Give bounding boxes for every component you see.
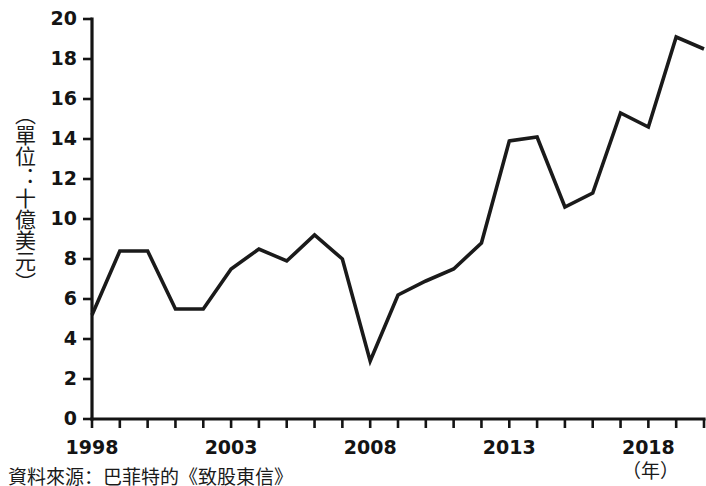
y-tick-label: 4 bbox=[43, 329, 77, 348]
y-tick-label: 16 bbox=[43, 89, 77, 108]
axis-lines bbox=[92, 19, 704, 419]
data-series-group bbox=[92, 37, 704, 361]
y-tick-label: 6 bbox=[43, 289, 77, 308]
x-tick-label: 2008 bbox=[335, 438, 405, 457]
x-tick-label: 1998 bbox=[57, 438, 127, 457]
y-tick-label: 14 bbox=[43, 129, 77, 148]
y-tick-label: 10 bbox=[43, 209, 77, 228]
y-tick-label: 20 bbox=[43, 9, 77, 28]
y-tick-label: 12 bbox=[43, 169, 77, 188]
y-tick-label: 18 bbox=[43, 49, 77, 68]
y-axis-title: （單位：十億美元） bbox=[2, 104, 36, 293]
chart-plot-area bbox=[0, 0, 706, 486]
y-tick-label: 2 bbox=[43, 369, 77, 388]
x-tick-label: 2013 bbox=[474, 438, 544, 457]
y-tick-label: 0 bbox=[43, 409, 77, 428]
chart-figure: （單位：十億美元） 02468101214161820 199820032008… bbox=[0, 0, 706, 486]
y-tick-label: 8 bbox=[43, 249, 77, 268]
x-tick-label: 2018 bbox=[613, 438, 683, 457]
x-tick-label: 2003 bbox=[196, 438, 266, 457]
x-axis-title: （年） bbox=[622, 461, 679, 482]
source-note: 資料來源：巴菲特的《致股東信》 bbox=[8, 466, 293, 486]
data-line bbox=[92, 37, 704, 361]
